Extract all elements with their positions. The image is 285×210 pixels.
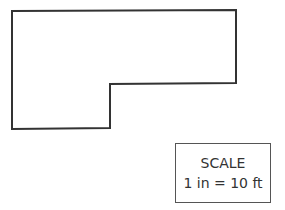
l-shaped-outline (12, 10, 236, 129)
scale-ratio: 1 in = 10 ft (183, 173, 262, 193)
scale-legend: SCALE 1 in = 10 ft (175, 143, 271, 203)
scale-title: SCALE (201, 153, 246, 173)
